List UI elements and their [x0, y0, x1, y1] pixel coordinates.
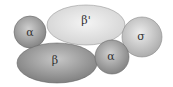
subunit-label: α: [26, 26, 34, 39]
subunit-label: β': [81, 14, 90, 27]
rna-polymerase-diagram: α β' σ β α: [0, 0, 173, 87]
subunit-label: β: [52, 54, 58, 67]
subunit-alpha-left: α: [14, 16, 46, 48]
subunit-beta: β: [17, 43, 97, 83]
subunit-beta-prime: β': [47, 5, 125, 45]
subunit-label: α: [107, 50, 115, 63]
subunit-alpha-right: α: [95, 40, 129, 74]
subunit-label: σ: [137, 30, 145, 43]
